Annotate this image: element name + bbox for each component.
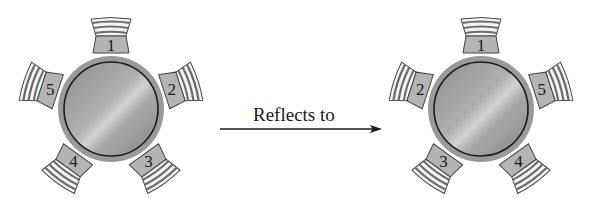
table-reflected: 1 5 4 3 2: [388, 18, 574, 195]
chair-5: 5: [18, 62, 64, 111]
seat-number: 2: [416, 80, 425, 99]
seat-number: 3: [144, 152, 153, 171]
seat-number: 1: [107, 36, 116, 55]
chair-2: 2: [158, 62, 204, 111]
chair-1: 1: [461, 18, 501, 56]
seat-number: 3: [439, 152, 448, 171]
reflection-arrow: [220, 125, 382, 133]
chair-5: 5: [528, 62, 574, 111]
reflection-diagram: 1 2 3 4 5 1 5: [0, 0, 597, 199]
seat-number: 4: [514, 152, 523, 171]
arrow-label: Reflects to: [253, 104, 335, 126]
table-original: 1 2 3 4 5: [18, 18, 204, 195]
seat-number: 2: [168, 80, 177, 99]
seat-number: 4: [69, 152, 78, 171]
chair-2: 2: [388, 62, 434, 111]
chair-1: 1: [91, 18, 131, 56]
seat-number: 5: [46, 80, 55, 99]
seat-number: 5: [538, 80, 547, 99]
seat-number: 1: [477, 36, 486, 55]
